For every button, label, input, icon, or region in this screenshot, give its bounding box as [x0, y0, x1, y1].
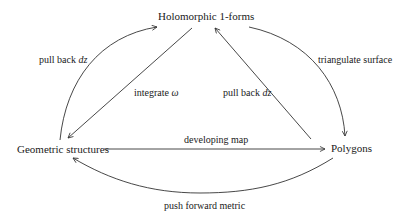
label-left-arc: pull back dz [39, 55, 87, 65]
label-text: integrate [134, 87, 171, 98]
label-right-diagonal: pull back dz [223, 88, 271, 98]
node-polygons: Polygons [331, 143, 372, 154]
label-bottom-arc: push forward metric [164, 201, 245, 211]
label-left-diagonal: integrate ω [134, 88, 179, 98]
label-horizontal: developing map [184, 135, 248, 145]
arrow-right-diagonal [215, 28, 311, 139]
label-math: dz [78, 54, 87, 65]
diagram-arrows [0, 0, 409, 223]
label-right-arc: triangulate surface [318, 55, 392, 65]
node-holomorphic-1-forms: Holomorphic 1-forms [158, 11, 254, 22]
arrow-right-arc [249, 27, 345, 136]
label-text: pull back [39, 54, 78, 65]
label-text: pull back [223, 87, 262, 98]
label-math: dz [262, 87, 271, 98]
arrow-left-diagonal [68, 28, 192, 138]
label-math: ω [171, 87, 178, 98]
node-geometric-structures: Geometric structures [17, 144, 109, 155]
arrow-left-arc [60, 27, 157, 140]
arrow-bottom-arc [73, 158, 333, 193]
diagram: Holomorphic 1-forms Geometric structures… [0, 0, 409, 223]
